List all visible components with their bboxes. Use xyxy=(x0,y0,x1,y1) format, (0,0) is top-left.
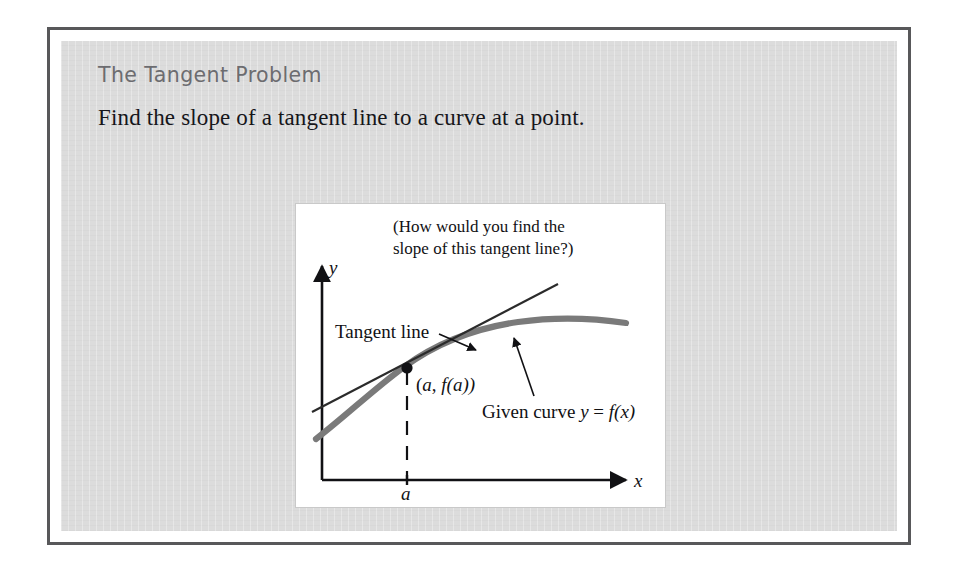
y-axis-label: y xyxy=(327,257,338,278)
figure-caption-line-1: (How would you find the xyxy=(393,217,565,236)
tangent-problem-figure: (How would you find the slope of this ta… xyxy=(296,204,665,507)
page-title: The Tangent Problem xyxy=(98,63,322,87)
x-axis-label: x xyxy=(633,470,643,491)
tangent-line-label: Tangent line xyxy=(335,321,429,342)
slide-body-text: Find the slope of a tangent line to a cu… xyxy=(98,105,585,131)
given-curve-leader-arrow xyxy=(514,338,534,396)
figure-container: (How would you find the slope of this ta… xyxy=(295,203,666,508)
tangency-point-marker xyxy=(401,362,412,373)
slide-panel: The Tangent Problem Find the slope of a … xyxy=(61,41,897,531)
given-curve-label: Given curve y = f(x) xyxy=(482,401,635,423)
tangency-point-label: (a, f(a)) xyxy=(416,374,475,396)
x-tick-label-a: a xyxy=(401,483,411,504)
slide-frame: The Tangent Problem Find the slope of a … xyxy=(47,27,911,545)
scanned-page: The Tangent Problem Find the slope of a … xyxy=(0,0,957,573)
figure-caption-line-2: slope of this tangent line?) xyxy=(393,239,573,258)
